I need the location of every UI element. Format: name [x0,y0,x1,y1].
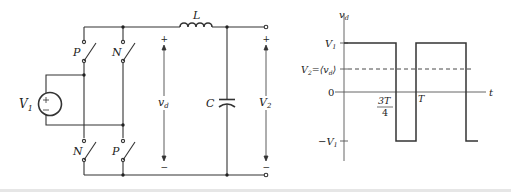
voltage-source-icon [39,93,62,116]
switch-label-upper-left: P [72,46,81,59]
switch-label-upper-right: N [111,46,122,59]
figure: V1 P N N P L C + vd − + V2 − vd t V1 V2=… [0,0,511,192]
tick-label-v2: V2=⟨vd⟩ [301,64,336,76]
x-axis-label: t [489,87,494,98]
tick-label-3t-over-4: 3T 4 [377,95,393,118]
y-axis-label: vd [339,9,349,22]
switch-label-lower-right: P [111,145,120,158]
inductor-icon [180,23,212,27]
output-terminal-bottom [264,173,268,177]
switch-lower-left [82,139,96,161]
switch-upper-right [121,40,135,62]
waveform-graph: vd t V1 V2=⟨vd⟩ 0 −V1 3T 4 T [301,9,494,161]
v2-minus-sign: − [263,162,271,172]
tick-label-neg-v1: −V1 [318,136,338,149]
switch-label-lower-left: N [72,145,83,158]
svg-text:4: 4 [382,107,388,118]
switch-lower-right [121,139,135,161]
tick-label-zero: 0 [328,87,334,98]
capacitor-label: C [206,97,215,110]
vd-minus-sign: − [161,162,169,172]
tick-label-t: T [418,93,425,104]
switch-upper-left [82,40,96,62]
vd-plus-sign: + [161,34,169,44]
v2-label: V2 [259,96,272,110]
vd-label: vd [158,96,169,110]
source-label: V1 [19,97,33,113]
bottom-border [0,189,511,192]
inductor-label: L [192,9,200,22]
circuit-labels: V1 P N N P L C + vd − + V2 − [19,9,272,172]
v2-plus-sign: + [263,34,271,44]
output-terminal-top [264,25,268,29]
capacitor-icon [219,27,235,175]
tick-label-v1: V1 [325,38,336,51]
svg-text:3T: 3T [378,95,391,106]
source-top-wire [46,75,84,93]
